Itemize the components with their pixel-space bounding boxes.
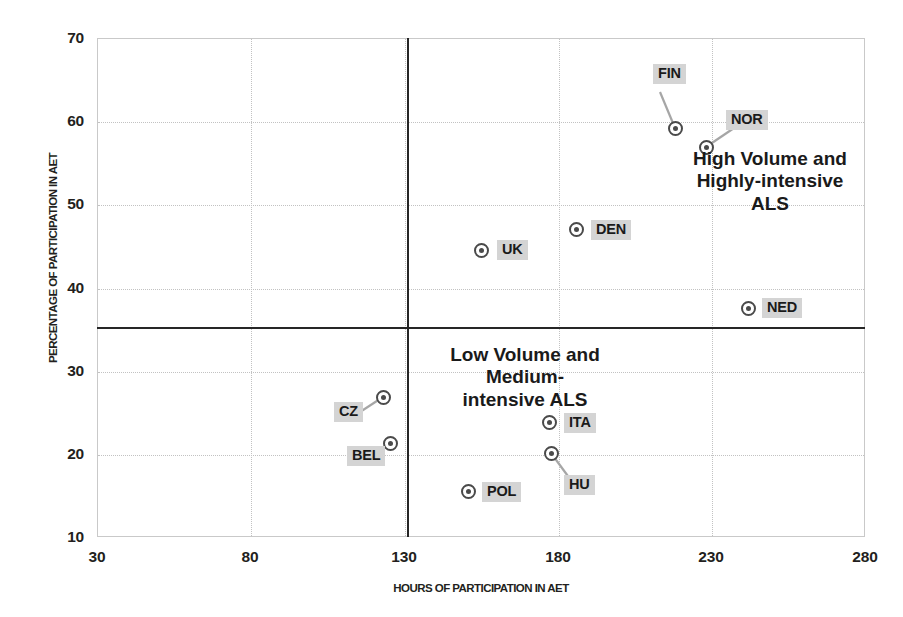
gridline-x-130 [405,39,406,536]
point-label-pol: POL [482,482,521,502]
data-point-fin[interactable] [668,121,683,136]
data-point-den[interactable] [569,222,584,237]
y-tick-40: 40 [38,280,84,296]
high-volume-note: High Volume and Highly-intensive ALS [655,148,885,215]
x-tick-80: 80 [220,549,280,565]
point-label-uk: UK [497,240,528,260]
gridline-x-230 [712,39,713,536]
y-tick-50: 50 [38,196,84,212]
point-label-bel: BEL [347,446,385,466]
data-point-pol[interactable] [461,484,476,499]
data-point-hu[interactable] [544,446,559,461]
gridline-y-20 [98,455,864,456]
point-label-den: DEN [591,220,631,240]
gridline-x-80 [251,39,252,536]
point-label-hu: HU [564,475,595,495]
x-tick-30: 30 [67,549,127,565]
y-tick-30: 30 [38,363,84,379]
y-axis-title: PERCENTAGE OF PARTICIPATION IN AET [47,93,59,423]
point-label-ned: NED [762,298,802,318]
scatter-chart: 70 60 50 40 30 20 10 30 80 130 180 230 2… [0,0,903,617]
x-tick-280: 280 [835,549,895,565]
x-axis-title: HOURS OF PARTICIPATION IN AET [97,582,865,594]
y-tick-60: 60 [38,113,84,129]
y-tick-10: 10 [38,529,84,545]
quadrant-divider-horizontal [97,327,865,329]
point-label-ita: ITA [564,413,596,433]
point-label-fin: FIN [653,64,686,84]
data-point-ita[interactable] [542,415,557,430]
data-point-cz[interactable] [376,390,391,405]
point-label-cz: CZ [334,402,363,422]
x-tick-230: 230 [681,549,741,565]
y-tick-20: 20 [38,446,84,462]
quadrant-divider-vertical [407,38,409,537]
point-label-nor: NOR [726,110,768,130]
data-point-uk[interactable] [474,243,489,258]
x-tick-180: 180 [528,549,588,565]
gridline-x-180 [559,39,560,536]
data-point-ned[interactable] [741,301,756,316]
low-volume-note: Low Volume and Medium- intensive ALS [410,344,640,411]
x-tick-130: 130 [374,549,434,565]
gridline-y-40 [98,289,864,290]
y-tick-70: 70 [38,30,84,46]
